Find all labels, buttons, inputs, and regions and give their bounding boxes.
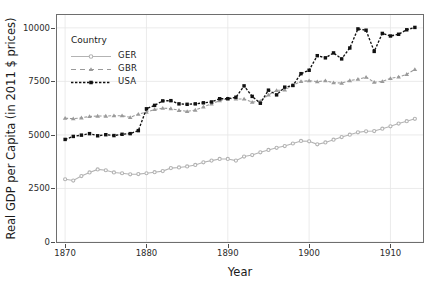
y-tick-mark	[51, 188, 55, 189]
data-point-marker	[291, 84, 294, 87]
series-ger	[64, 117, 417, 182]
y-tick-label: 2500	[16, 183, 50, 193]
y-tick-mark	[51, 135, 55, 136]
x-tick-mark	[228, 244, 229, 248]
data-point-marker	[112, 134, 115, 137]
legend-item-gbr[interactable]: GBR	[70, 61, 137, 74]
data-point-marker	[308, 140, 311, 143]
data-point-marker	[194, 163, 197, 166]
data-point-marker	[137, 129, 140, 132]
data-point-marker	[291, 142, 294, 145]
data-point-marker	[226, 157, 229, 160]
data-point-marker	[340, 136, 343, 139]
data-point-marker	[177, 166, 180, 169]
data-point-marker	[145, 172, 148, 175]
y-tick-label: 5000	[16, 130, 50, 140]
data-point-marker	[234, 159, 237, 162]
data-point-marker	[250, 95, 253, 98]
x-tick-label: 1880	[136, 248, 158, 258]
data-point-marker	[72, 135, 75, 138]
data-point-marker	[299, 139, 302, 142]
data-point-marker	[88, 171, 91, 174]
x-tick-mark	[390, 244, 391, 248]
legend: Country GERGBRUSA	[66, 33, 141, 90]
legend-title: Country	[70, 35, 137, 45]
data-point-marker	[389, 125, 392, 128]
data-point-marker	[80, 133, 83, 136]
data-point-marker	[218, 97, 221, 100]
data-point-marker	[64, 178, 67, 181]
data-point-marker	[348, 46, 351, 49]
data-point-marker	[299, 72, 302, 75]
y-tick-mark	[51, 28, 55, 29]
data-point-marker	[112, 171, 115, 174]
data-point-marker	[202, 101, 205, 104]
data-point-marker	[210, 159, 213, 162]
data-point-marker	[340, 57, 343, 60]
data-point-marker	[332, 138, 335, 141]
y-tick-label: 10000	[16, 23, 50, 33]
legend-item-ger[interactable]: GER	[70, 48, 137, 61]
data-point-marker	[63, 138, 66, 141]
legend-item-usa[interactable]: USA	[70, 74, 137, 87]
data-point-marker	[388, 76, 393, 80]
data-point-marker	[381, 127, 384, 130]
data-point-marker	[210, 100, 213, 103]
data-point-marker	[405, 120, 408, 123]
data-point-marker	[389, 34, 392, 37]
data-point-marker	[104, 133, 107, 136]
data-point-marker	[153, 104, 156, 107]
data-point-marker	[413, 67, 418, 71]
data-point-marker	[80, 174, 83, 177]
data-point-marker	[137, 173, 140, 176]
data-point-marker	[89, 55, 93, 59]
legend-key-ger-icon	[70, 48, 112, 61]
x-tick-mark	[309, 244, 310, 248]
data-point-marker	[373, 130, 376, 133]
data-point-marker	[324, 141, 327, 144]
data-point-marker	[169, 99, 172, 102]
y-tick-mark	[51, 242, 55, 243]
data-point-marker	[186, 165, 189, 168]
data-point-marker	[397, 122, 400, 125]
data-point-marker	[316, 54, 319, 57]
data-point-marker	[404, 72, 409, 76]
data-point-marker	[194, 102, 197, 105]
data-point-marker	[348, 133, 351, 136]
data-point-marker	[96, 134, 99, 137]
data-point-marker	[275, 146, 278, 149]
data-point-marker	[283, 145, 286, 148]
data-point-marker	[169, 167, 172, 170]
data-point-marker	[332, 51, 335, 54]
data-point-marker	[356, 27, 359, 30]
data-point-marker	[121, 172, 124, 175]
data-point-marker	[89, 81, 93, 85]
data-point-marker	[201, 105, 206, 109]
y-tick-mark	[51, 81, 55, 82]
data-point-marker	[347, 78, 352, 82]
data-point-marker	[267, 88, 270, 91]
data-point-marker	[365, 130, 368, 133]
data-point-marker	[364, 75, 369, 79]
y-tick-label: 0	[16, 237, 50, 247]
data-point-marker	[145, 107, 148, 110]
x-axis-title: Year	[56, 265, 424, 279]
legend-label: GER	[118, 50, 137, 60]
legend-key-usa-icon	[70, 74, 112, 87]
data-point-marker	[307, 69, 310, 72]
data-point-marker	[259, 102, 262, 105]
data-point-marker	[129, 173, 132, 176]
data-point-marker	[128, 132, 131, 135]
chart-container: Real GDP per Capita (in 2011 $ prices) 0…	[0, 0, 447, 287]
data-point-marker	[356, 131, 359, 134]
data-point-marker	[72, 179, 75, 182]
data-point-marker	[136, 112, 141, 116]
data-point-marker	[396, 75, 401, 79]
legend-entries: GERGBRUSA	[70, 48, 137, 87]
data-point-marker	[413, 117, 416, 120]
data-point-marker	[161, 99, 164, 102]
data-point-marker	[324, 56, 327, 59]
y-tick-label: 7500	[16, 76, 50, 86]
data-point-marker	[153, 171, 156, 174]
legend-label: GBR	[118, 63, 137, 73]
